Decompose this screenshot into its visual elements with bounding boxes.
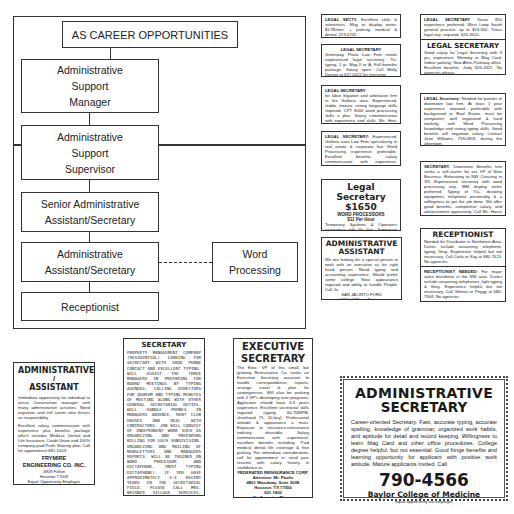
ad-address: 6011 I-10East, Baytown [325,297,398,300]
ad-divider [421,266,505,267]
ad-body: Greenway Plaza Law Firm needs experience… [325,52,397,77]
ad-secretary-downtown: SECRETARY. Downtown Benefits firm seeks … [420,161,506,216]
ad-eeo-note: Equal Opportunity Employer [18,479,90,484]
ad-body: For major valve distributor in the NW ar… [424,269,502,299]
ad-receptionist: RECEPTIONIST Needed for Distributor in N… [420,228,506,302]
ad-body: We are looking for a special person to w… [325,257,398,292]
ad-heading: ADMINISTRATIVE ASSISTANT [325,240,398,256]
ad-heading-slash: / [18,375,90,383]
ad-body: Immediate opportunity for individual to … [18,395,90,420]
ad-organization: Baylor College of Medicine [351,490,497,499]
ad-phone: 790-4566 [351,470,497,490]
ad-executive-secretary: EXECUTIVE SECRETARY The Exec. VP of this… [233,338,313,498]
ad-legal-secty: LEGAL SECTY. Excellent skills & referenc… [321,14,401,38]
ad-heading: Legal Secretary $1650 [325,182,397,212]
ad-heading: SECRETARY [237,353,309,365]
ad-heading: LEGAL SECRETARY [424,42,502,50]
ad-body: Good salary for Legal Secretary with 3 y… [424,50,502,75]
ad-company: FRYMIRE [18,455,90,462]
ad-body: for labor litigation and arbitration fir… [325,93,397,124]
ad-body: Excellent salary commensurate with exper… [18,423,90,453]
ad-heading: SECRETARY [127,341,201,350]
ad-eeo-note: equal opportunity a/a employer [351,499,497,505]
ad-body: Needed for Distributor in Northwest Area… [424,239,502,264]
ad-body: Downtown Benefits firm seeks a self-star… [424,164,502,216]
ad-secretary-property: SECRETARY PROPERTY MANAGEMENT COMPANY (R… [123,338,205,496]
ad-body: Temporary Systems & Operators experience… [325,222,397,231]
ad-administrative-assistant-frymire: ADMINISTRATIVE / ASSISTANT Immediate opp… [13,362,95,485]
ad-heading: SECRETARY [351,400,497,415]
ad-note: No Agencies Please [237,495,309,498]
ad-administrative-assistant-sj: ADMINISTRATIVE ASSISTANT We are looking … [321,237,402,300]
ad-heading: ASSISTANT [18,383,90,393]
ad-body: Needed for partner of downtown law firm.… [424,96,502,146]
ad-legal-secretary-labor: LEGAL SECRETARY for labor litigation and… [321,85,401,124]
ad-body: Career-oriented Secretary. Fast, accurat… [351,419,497,468]
ad-heading: EXECUTIVE [237,341,309,353]
ad-company: ENGINEERING CO. INC. [18,462,90,469]
ad-administrative-secretary-baylor: ADMINISTRATIVE SECRETARY Career-oriented… [340,376,508,501]
ad-body: PROPERTY MANAGEMENT COMPANY (RESIDENTIAL… [127,350,201,496]
ad-body: Experienced, Galleria area Law Firm spec… [325,134,397,166]
ad-legal-secretary-greenway: LEGAL SECRETARY Greenway Plaza Law Firm … [321,44,401,77]
ad-legal-secretary-galleria: LEGAL SECRETARY: Experienced, Galleria a… [321,131,401,166]
ad-body: The Exec. VP of this small, but growing … [237,365,309,470]
chart-border [13,16,306,329]
ad-legal-secretary-stack: LEGAL SECRETARY Xerox 850 experience pre… [420,14,506,75]
ad-heading: RECEPTIONIST [424,231,502,239]
ad-legal-secretary-1650: Legal Secretary $1650 WORD PROCESSORS $1… [321,179,401,231]
ad-heading: ADMINISTRATIVE [351,386,497,400]
ad-divider [421,39,505,40]
ad-legal-secretary-downtown: LEGAL Secretary: Needed for partner of d… [420,93,506,146]
